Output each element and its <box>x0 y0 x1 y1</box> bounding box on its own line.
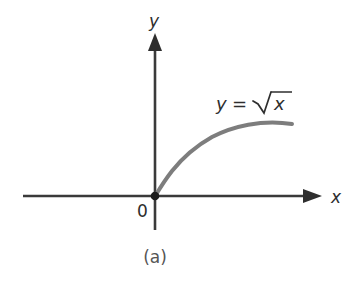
figure-caption: (a) <box>143 247 167 267</box>
x-axis-label: x <box>330 187 342 207</box>
origin-point-marker <box>151 192 160 201</box>
sqrt-curve <box>156 122 293 195</box>
equation-lhs: y <box>215 93 227 114</box>
figure-container: y x 0 y = x (a) <box>0 0 363 295</box>
origin-label: 0 <box>137 201 148 221</box>
y-axis-arrow-icon <box>148 33 162 51</box>
equation-radicand: x <box>273 93 285 114</box>
equation-label: y = x <box>215 92 292 114</box>
y-axis-label: y <box>148 11 160 31</box>
equation-operator: = <box>232 93 247 114</box>
graph-svg: y x 0 y = x (a) <box>0 0 363 295</box>
x-axis-arrow-icon <box>303 189 322 203</box>
radical-sign-icon <box>253 92 271 113</box>
